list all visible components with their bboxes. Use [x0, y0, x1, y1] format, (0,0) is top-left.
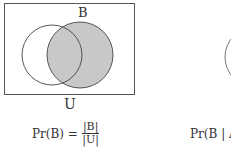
formula-lhs-right: Pr(B | A: [190, 127, 231, 141]
set-b-label: B: [78, 6, 88, 19]
fraction: |B| |U|: [82, 121, 100, 146]
universe-label: U: [64, 97, 76, 111]
right-set-circle: [225, 27, 231, 87]
denominator: |U|: [82, 134, 99, 146]
formula-lhs: Pr(B) =: [32, 127, 78, 141]
formula-pr-b: Pr(B) = |B| |U|: [32, 121, 99, 146]
formula-pr-b-given-a: Pr(B | A: [190, 127, 231, 141]
